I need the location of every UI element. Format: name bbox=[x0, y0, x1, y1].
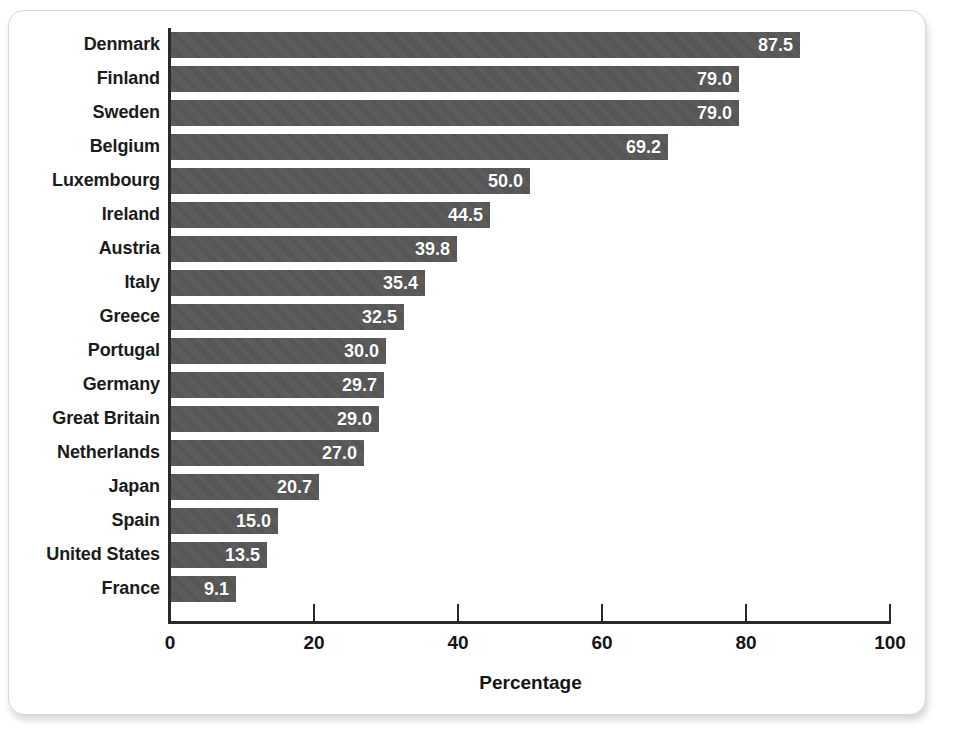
category-label: Austria bbox=[0, 238, 160, 259]
bar-value-label: 27.0 bbox=[322, 444, 357, 462]
category-label: Luxembourg bbox=[0, 170, 160, 191]
bar-value-label: 87.5 bbox=[758, 36, 793, 54]
x-axis-tick bbox=[601, 604, 603, 622]
bar: 27.0 bbox=[170, 440, 364, 466]
x-axis-tick bbox=[169, 604, 171, 622]
category-label: Italy bbox=[0, 272, 160, 293]
bar-value-label: 32.5 bbox=[362, 308, 397, 326]
bar-value-label: 50.0 bbox=[488, 172, 523, 190]
bar: 44.5 bbox=[170, 202, 490, 228]
x-axis-tick bbox=[745, 604, 747, 622]
bar: 69.2 bbox=[170, 134, 668, 160]
category-label: Japan bbox=[0, 476, 160, 497]
bar-value-label: 15.0 bbox=[236, 512, 271, 530]
bar-value-label: 9.1 bbox=[204, 580, 229, 598]
bar-value-label: 13.5 bbox=[225, 546, 260, 564]
bar: 35.4 bbox=[170, 270, 425, 296]
bar: 13.5 bbox=[170, 542, 267, 568]
bar: 32.5 bbox=[170, 304, 404, 330]
category-label: Portugal bbox=[0, 340, 160, 361]
x-axis-tick-label: 60 bbox=[562, 632, 642, 654]
bar-chart: 87.579.079.069.250.044.539.835.432.530.0… bbox=[0, 0, 956, 744]
bar-value-label: 29.0 bbox=[337, 410, 372, 428]
bar: 29.0 bbox=[170, 406, 379, 432]
x-axis-tick bbox=[457, 604, 459, 622]
bar-value-label: 39.8 bbox=[415, 240, 450, 258]
category-label: Greece bbox=[0, 306, 160, 327]
x-axis-tick-label: 80 bbox=[706, 632, 786, 654]
x-axis-title: Percentage bbox=[170, 672, 891, 694]
bar: 9.1 bbox=[170, 576, 236, 602]
x-axis-tick-label: 100 bbox=[850, 632, 930, 654]
bar-value-label: 29.7 bbox=[342, 376, 377, 394]
bar-value-label: 79.0 bbox=[697, 70, 732, 88]
category-label: United States bbox=[0, 544, 160, 565]
category-label: Belgium bbox=[0, 136, 160, 157]
category-label: Netherlands bbox=[0, 442, 160, 463]
category-label: Sweden bbox=[0, 102, 160, 123]
category-label: Great Britain bbox=[0, 408, 160, 429]
bar-value-label: 44.5 bbox=[448, 206, 483, 224]
category-label: Finland bbox=[0, 68, 160, 89]
bar: 20.7 bbox=[170, 474, 319, 500]
bar: 50.0 bbox=[170, 168, 530, 194]
x-axis-tick bbox=[313, 604, 315, 622]
bar-value-label: 30.0 bbox=[344, 342, 379, 360]
category-label: Denmark bbox=[0, 34, 160, 55]
category-label: Germany bbox=[0, 374, 160, 395]
bar: 79.0 bbox=[170, 100, 739, 126]
x-axis-line bbox=[168, 621, 891, 624]
category-label: France bbox=[0, 578, 160, 599]
x-axis-tick bbox=[889, 604, 891, 622]
bar: 39.8 bbox=[170, 236, 457, 262]
bar: 30.0 bbox=[170, 338, 386, 364]
category-label: Spain bbox=[0, 510, 160, 531]
bar: 29.7 bbox=[170, 372, 384, 398]
bar: 87.5 bbox=[170, 32, 800, 58]
bar: 79.0 bbox=[170, 66, 739, 92]
bar-value-label: 79.0 bbox=[697, 104, 732, 122]
x-axis-tick-label: 40 bbox=[418, 632, 498, 654]
x-axis-tick-label: 20 bbox=[274, 632, 354, 654]
bar-value-label: 35.4 bbox=[383, 274, 418, 292]
category-label: Ireland bbox=[0, 204, 160, 225]
x-axis-tick-label: 0 bbox=[130, 632, 210, 654]
bar-value-label: 20.7 bbox=[277, 478, 312, 496]
bar: 15.0 bbox=[170, 508, 278, 534]
bar-value-label: 69.2 bbox=[626, 138, 661, 156]
y-axis-line bbox=[168, 28, 171, 624]
